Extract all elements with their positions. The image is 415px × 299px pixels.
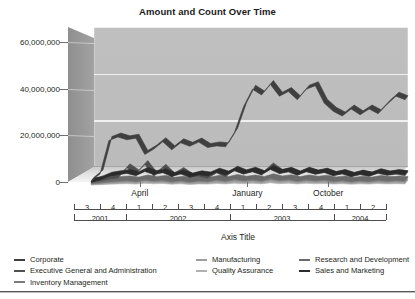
legend-item-label: Research and Development xyxy=(315,254,409,265)
x-axis-quarter-label: 2 xyxy=(163,203,167,212)
x-axis-quarter-label: 4 xyxy=(319,203,323,212)
x-axis-quarter-row: 341234123412 xyxy=(68,203,408,214)
series-area xyxy=(91,81,408,182)
legend-item[interactable]: Quality Assurance xyxy=(196,265,273,276)
y-axis-tick xyxy=(59,89,68,90)
legend-item-label: Executive General and Administration xyxy=(30,265,157,276)
legend-item-label: Quality Assurance xyxy=(212,265,273,276)
x-axis-quarter-label: 4 xyxy=(111,203,115,212)
legend-item-label: Inventory Management xyxy=(30,277,108,288)
legend-swatch-icon xyxy=(299,259,310,261)
x-axis-year-end xyxy=(386,214,387,220)
x-axis-year-row: 2001200220032004 xyxy=(68,214,408,225)
x-axis-quarter-label: 3 xyxy=(189,203,193,212)
legend-swatch-icon xyxy=(196,270,207,272)
legend-item[interactable]: Inventory Management xyxy=(14,277,157,288)
x-axis-quarter-label: 4 xyxy=(215,203,219,212)
x-axis-quarter-baseline xyxy=(74,209,386,210)
legend-item-label: Sales and Marketing xyxy=(315,265,384,276)
x-axis-month-label: January xyxy=(232,188,262,198)
chart-container: Amount and Count Over Time 020,000,00040… xyxy=(0,0,415,299)
footer-divider-shadow xyxy=(0,292,415,293)
series-layer xyxy=(68,27,408,182)
y-axis-tick xyxy=(59,182,68,183)
x-axis-month-tick xyxy=(247,182,248,187)
legend-item[interactable]: Corporate xyxy=(14,254,157,265)
legend-swatch-icon xyxy=(14,259,25,261)
legend-column-1: CorporateExecutive General and Administr… xyxy=(14,254,157,288)
y-axis-tick-label: 20,000,000 xyxy=(20,131,60,140)
x-axis-quarter-label: 2 xyxy=(371,203,375,212)
x-axis-month-tick xyxy=(140,182,141,187)
y-axis-tick xyxy=(59,135,68,136)
x-axis-year-label: 2003 xyxy=(274,214,291,223)
legend-column-3: Research and DevelopmentSales and Market… xyxy=(299,254,409,277)
x-axis-month-tick xyxy=(328,182,329,187)
plot-area xyxy=(68,27,408,182)
legend-item[interactable]: Research and Development xyxy=(299,254,409,265)
x-axis-year-label: 2002 xyxy=(170,214,187,223)
chart-legend: CorporateExecutive General and Administr… xyxy=(14,254,409,288)
x-axis-quarter-label: 1 xyxy=(241,203,245,212)
legend-item-label: Manufacturing xyxy=(212,254,260,265)
legend-item[interactable]: Sales and Marketing xyxy=(299,265,409,276)
y-axis: 020,000,00040,000,00060,000,000 xyxy=(0,0,70,200)
x-axis-month-label: April xyxy=(131,188,148,198)
x-axis-month-label: October xyxy=(313,188,343,198)
legend-item[interactable]: Manufacturing xyxy=(196,254,273,265)
y-axis-tick-label: 60,000,000 xyxy=(20,38,60,47)
x-axis-quarter-label: 3 xyxy=(293,203,297,212)
x-axis-quarter-label: 2 xyxy=(267,203,271,212)
x-axis-quarter-end xyxy=(386,204,387,210)
legend-swatch-icon xyxy=(299,270,310,272)
legend-swatch-icon xyxy=(14,281,25,283)
legend-swatch-icon xyxy=(14,270,25,272)
x-axis-quarter-label: 1 xyxy=(345,203,349,212)
y-axis-tick xyxy=(59,42,68,43)
x-axis-year-label: 2001 xyxy=(92,214,109,223)
legend-column-2: ManufacturingQuality Assurance xyxy=(196,254,273,277)
x-axis-year-label: 2004 xyxy=(352,214,369,223)
x-axis-quarter-label: 1 xyxy=(137,203,141,212)
legend-item-label: Corporate xyxy=(30,254,64,265)
legend-item[interactable]: Executive General and Administration xyxy=(14,265,157,276)
y-axis-tick-label: 40,000,000 xyxy=(20,84,60,93)
x-axis-year-baseline xyxy=(74,220,386,221)
x-axis-quarter-label: 3 xyxy=(85,203,89,212)
x-axis-title: Axis Title xyxy=(68,232,408,242)
legend-swatch-icon xyxy=(196,259,207,261)
